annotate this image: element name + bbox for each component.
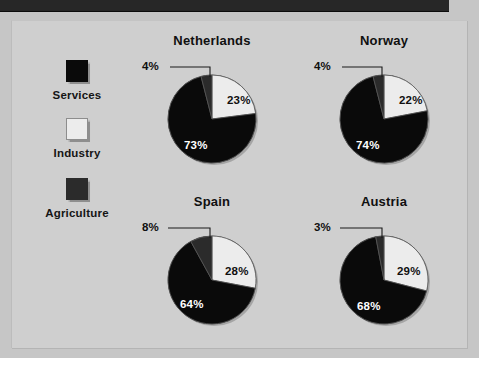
legend-item-agriculture: Agriculture <box>17 178 137 219</box>
pie-netherlands: 4% 23% 73% <box>132 49 292 189</box>
legend-label-industry: Industry <box>54 147 101 159</box>
slice-label-industry-netherlands: 23% <box>227 94 251 106</box>
pie-austria: 3% 29% 68% <box>304 210 464 350</box>
pie-norway: 4% 22% 74% <box>304 49 464 189</box>
legend-label-services: Services <box>53 89 102 101</box>
services-swatch-icon <box>66 60 88 82</box>
pie-spain: 8% 28% 64% <box>132 210 292 350</box>
slice-label-agriculture-netherlands: 4% <box>142 60 159 72</box>
chart-norway: Norway 4% 22% 74% <box>304 32 464 191</box>
top-dark-band <box>0 0 449 12</box>
legend: Services Industry Agriculture <box>17 60 137 236</box>
chart-title-norway: Norway <box>304 32 464 49</box>
legend-item-industry: Industry <box>17 118 137 159</box>
industry-swatch-icon <box>66 118 88 140</box>
slice-label-agriculture-austria: 3% <box>314 221 331 233</box>
slice-label-industry-spain: 28% <box>225 265 249 277</box>
slice-label-services-norway: 74% <box>356 139 380 151</box>
agriculture-swatch-icon <box>66 178 88 200</box>
scanned-page: Services Industry Agriculture Netherland… <box>0 0 492 375</box>
slice-label-services-austria: 68% <box>357 300 381 312</box>
chart-spain: Spain 8% 28% 64% <box>132 193 292 352</box>
legend-item-services: Services <box>17 60 137 101</box>
slice-label-agriculture-norway: 4% <box>314 60 331 72</box>
slice-label-services-netherlands: 73% <box>184 139 208 151</box>
chart-title-spain: Spain <box>132 193 292 210</box>
slice-label-industry-austria: 29% <box>397 265 421 277</box>
legend-label-agriculture: Agriculture <box>45 207 109 219</box>
slice-label-agriculture-spain: 8% <box>142 221 159 233</box>
pie-chart-grid: Netherlands 4% 23% 73% Norway <box>132 32 462 350</box>
chart-austria: Austria 3% 29% 68% <box>304 193 464 352</box>
chart-netherlands: Netherlands 4% 23% 73% <box>132 32 292 191</box>
slice-label-industry-norway: 22% <box>399 94 423 106</box>
chart-title-netherlands: Netherlands <box>132 32 292 49</box>
slice-label-services-spain: 64% <box>180 298 204 310</box>
chart-title-austria: Austria <box>304 193 464 210</box>
